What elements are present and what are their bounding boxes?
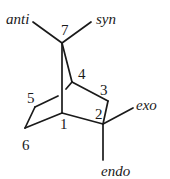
bond-c2-exo xyxy=(103,108,133,124)
atom-label-6: 6 xyxy=(22,137,30,153)
bond-c3-c2 xyxy=(103,101,108,124)
atom-label-5: 5 xyxy=(27,90,35,106)
bond-c4-c5 xyxy=(35,96,58,107)
label-endo: endo xyxy=(101,163,131,179)
atom-label-4: 4 xyxy=(78,66,86,82)
atom-label-1: 1 xyxy=(60,116,68,132)
bond-c7-c4 xyxy=(62,43,72,82)
norbornane-diagram: 7 4 3 5 1 2 6 anti syn exo endo xyxy=(0,0,170,179)
bond-c4-c5-segment xyxy=(66,82,72,89)
label-exo: exo xyxy=(136,97,157,113)
atom-label-3: 3 xyxy=(100,82,108,98)
label-syn: syn xyxy=(96,11,116,27)
atom-label-7: 7 xyxy=(61,22,69,38)
atom-label-2: 2 xyxy=(95,106,103,122)
bond-c7-anti xyxy=(33,22,62,43)
label-anti: anti xyxy=(6,11,29,27)
